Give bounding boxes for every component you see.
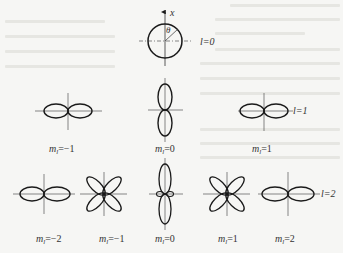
m-label-l2-m-2: ml=−2 [36,234,61,246]
plot-l2-m2 [258,172,320,216]
m-label-l1-m-1: ml=−1 [49,144,74,156]
l2-label: l=2 [321,189,336,199]
m-label-l2-m-1: ml=−1 [99,234,124,246]
plot-l1-m1 [238,93,293,131]
plot-l2-m-1 [80,172,127,216]
x-axis-label: x [170,8,174,18]
m-label-l2-m2: ml=2 [275,234,295,246]
plot-l2-m1 [203,172,250,216]
orbital-diagram [0,0,343,253]
m-label-l1-m1: ml=1 [252,144,272,156]
plot-l0-circle [139,12,193,66]
theta-label: θ [166,26,170,35]
plot-l1-m-1 [35,93,102,130]
plot-l2-m-2 [13,174,75,214]
m-label-l2-m0: ml=0 [155,234,175,246]
m-label-l1-m0: ml=0 [155,144,175,156]
l0-label: l=0 [200,37,215,47]
l1-label: l=1 [293,106,308,116]
m-label-l2-m1: ml=1 [218,234,238,246]
plot-l2-m0 [149,158,183,230]
plot-l1-m0 [148,78,183,142]
